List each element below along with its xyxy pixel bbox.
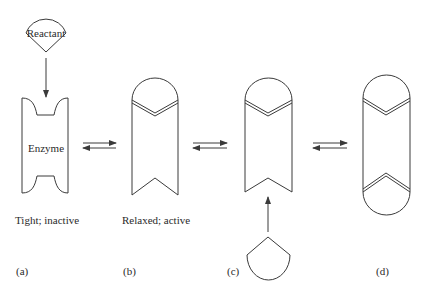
enzyme-tight-shape: Enzyme: [22, 98, 68, 193]
panel-label-b: (b): [123, 265, 136, 278]
panel-label-d: (d): [376, 265, 389, 278]
panel-label-c: (c): [227, 265, 240, 278]
caption-b: Relaxed; active: [122, 214, 190, 226]
caption-a: Tight; inactive: [15, 214, 79, 226]
enzyme-allosteric-diagram: Reactant Enzyme: [0, 0, 427, 292]
enzyme-relaxed-shape: [132, 78, 178, 195]
panel-c: [245, 78, 292, 280]
panel-label-a: (a): [16, 265, 29, 278]
equilibrium-arrows-2: [193, 143, 227, 148]
enzyme-capsule-shape: [363, 75, 410, 215]
second-reactant-shape: [247, 237, 290, 280]
reactant-shape: Reactant: [26, 19, 66, 52]
equilibrium-arrows-1: [83, 143, 116, 148]
equilibrium-arrows-3: [313, 143, 347, 148]
panel-b: [132, 78, 178, 195]
panel-d: [363, 75, 410, 215]
reactant-label: Reactant: [27, 27, 65, 39]
enzyme-relaxed-shape-c: [245, 78, 292, 192]
enzyme-label: Enzyme: [28, 142, 64, 154]
panel-a: Reactant Enzyme: [22, 19, 68, 193]
